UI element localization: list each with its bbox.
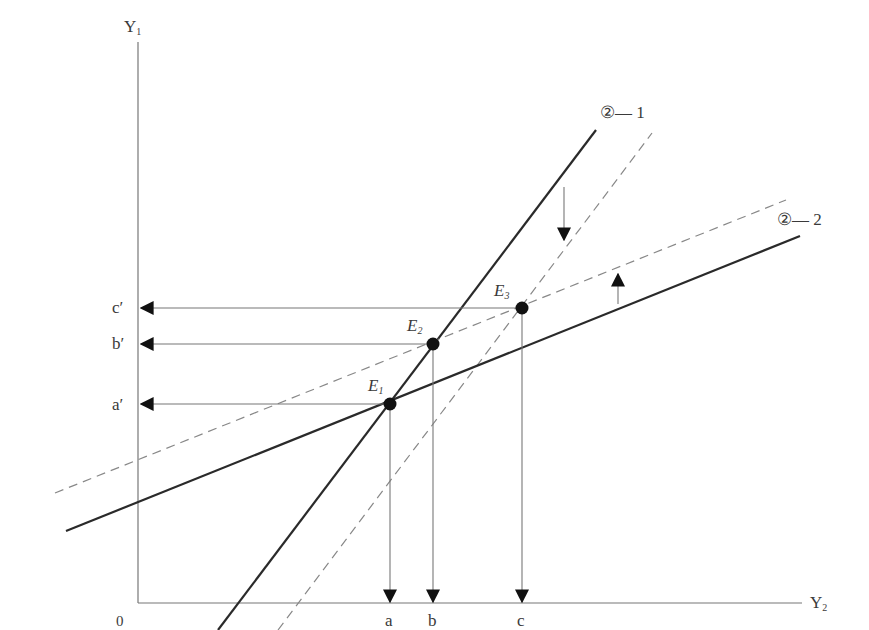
y-axis-label: Y1 [124,18,141,37]
label-e2: E2 [407,317,422,336]
projection-arrows [141,308,522,602]
x-axis-label: Y2 [810,594,827,613]
y-tick-a-prime: a′ [112,396,123,413]
line-2-2-label: ②— 2 [777,211,822,228]
diagram-canvas [0,0,869,630]
y-tick-c-prime: c′ [112,299,123,316]
equilibrium-point-e1 [384,398,397,411]
equilibrium-point-e3 [516,302,529,315]
line-2-1 [218,130,596,630]
shift-arrows [564,187,618,304]
x-tick-a: a [385,612,393,629]
line-2-1-label: ②— 1 [600,104,645,121]
equilibrium-point-e2 [427,338,440,351]
line-2-2-shifted [55,200,786,493]
x-tick-c: c [517,612,525,629]
origin-label: 0 [116,614,124,629]
label-e1: E1 [368,377,383,396]
curves-group [55,130,800,630]
x-tick-b: b [428,612,437,629]
label-e3: E3 [494,282,509,301]
y-tick-b-prime: b′ [112,335,124,352]
